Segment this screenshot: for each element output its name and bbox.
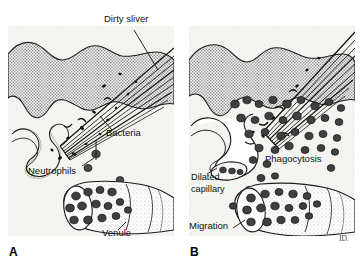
panel-a-illustration: Dirty sliver Bacteria Neutrophils Venule [8, 8, 174, 236]
label-venule: Venule [102, 227, 131, 236]
label-dirty-sliver: Dirty sliver [104, 13, 148, 24]
panel-letter-b: B [190, 245, 199, 259]
panel-letter-a: A [9, 245, 18, 259]
label-bacteria: Bacteria [106, 127, 142, 138]
label-neutrophils: Neutrophils [28, 165, 76, 176]
panel-b: Phagocytosis Dilated capillary Migration [189, 8, 355, 236]
label-capillary: capillary [191, 184, 225, 194]
label-dilated: Dilated [191, 172, 220, 182]
panel-a: Dirty sliver Bacteria Neutrophils Venule [8, 8, 174, 236]
label-phagocytosis: Phagocytosis [265, 153, 322, 164]
artist-signature: ID. [339, 234, 348, 242]
label-migration: Migration [189, 220, 228, 231]
panel-b-illustration: Phagocytosis Dilated capillary Migration [189, 8, 355, 236]
inflammation-figure: Dirty sliver Bacteria Neutrophils Venule [0, 0, 362, 267]
